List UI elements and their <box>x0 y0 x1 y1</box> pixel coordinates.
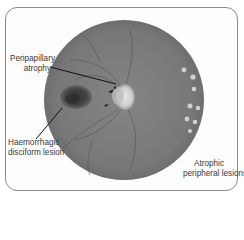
label-haemorrhagic-lesion: Haemorrhagic disciform lesion <box>8 138 64 157</box>
peripapillary-atrophy <box>112 87 124 105</box>
label-line: atrophy <box>8 64 55 74</box>
label-line: disciform lesion <box>8 148 64 158</box>
label-atrophic-peripheral-lesions: Atrophic peripheral lesions <box>183 159 235 178</box>
label-line: Atrophic <box>183 159 235 169</box>
label-line: Haemorrhagic <box>8 138 64 148</box>
label-line: peripheral lesions <box>183 169 235 179</box>
label-line: Peripapillary <box>8 54 55 64</box>
label-peripapillary-atrophy: Peripapillary atrophy <box>8 54 55 73</box>
